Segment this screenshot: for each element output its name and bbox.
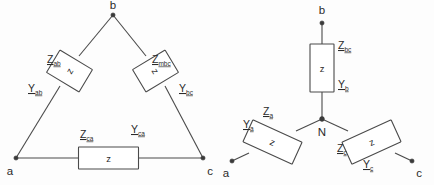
wye-element-box-c: z [342, 120, 401, 164]
wye-admittance-label-c: Yc [363, 158, 374, 172]
circuit-figure: z z z b a c Zab Yab Zmbc Ybc Zca Yca [0, 0, 434, 185]
wye-terminal-label-c: c [416, 167, 422, 179]
wye-admittance-label-b: Yb [338, 78, 349, 92]
wye-impedance-label-a: Za [263, 105, 273, 119]
wye-node-b [320, 21, 324, 25]
wye-element-box-b: z [310, 44, 334, 92]
wye-node-a [230, 159, 234, 163]
wye-impedance-label-b: Zbc [338, 39, 352, 53]
wye-neutral-label: N [318, 126, 326, 138]
wye-connection-diagram: z z z b a c N Zbc Yb Za Ya Zc Yc [0, 0, 434, 185]
wye-node-neutral [320, 117, 325, 122]
wye-terminal-label-b: b [319, 4, 325, 16]
wye-node-c [410, 159, 414, 163]
wye-wire-zc-to-c [395, 153, 412, 161]
wye-box-letter-b: z [320, 63, 325, 74]
wye-wire-za-to-a [232, 153, 249, 161]
wye-terminal-label-a: a [223, 167, 230, 179]
